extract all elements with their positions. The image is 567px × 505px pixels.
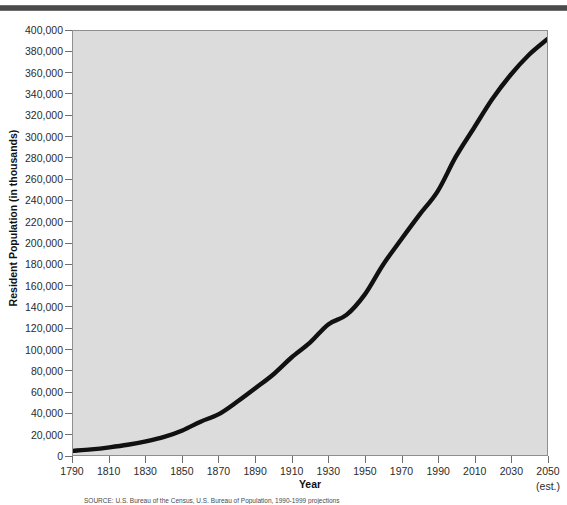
y-axis-tick-mark bbox=[65, 243, 72, 244]
plot-area bbox=[72, 30, 548, 456]
y-axis-tick-label: 300,000 bbox=[25, 131, 63, 143]
x-axis-tick-label: 1810 bbox=[97, 465, 120, 477]
y-axis-tick-mark bbox=[65, 51, 72, 52]
y-axis-tick-label: 200,000 bbox=[25, 237, 63, 249]
y-axis-tick-label: 380,000 bbox=[25, 45, 63, 57]
data-line-svg bbox=[73, 31, 547, 455]
y-axis-tick-label: 400,000 bbox=[25, 24, 63, 36]
x-axis-tick-mark bbox=[511, 456, 512, 463]
y-axis-tick-mark bbox=[65, 72, 72, 73]
y-axis-tick-mark bbox=[65, 157, 72, 158]
x-axis-tick-label: 1930 bbox=[317, 465, 340, 477]
y-axis: 020,00040,00060,00080,000100,000120,0001… bbox=[0, 30, 72, 456]
x-axis-tick-mark bbox=[438, 456, 439, 463]
x-axis-tick-mark bbox=[255, 456, 256, 463]
y-axis-tick-mark bbox=[65, 370, 72, 371]
y-axis-tick-label: 80,000 bbox=[31, 365, 63, 377]
y-axis-tick-mark bbox=[65, 413, 72, 414]
y-axis-tick-label: 240,000 bbox=[25, 194, 63, 206]
y-axis-tick-mark bbox=[65, 434, 72, 435]
x-axis-tick-label: 1910 bbox=[280, 465, 303, 477]
source-note: SOURCE: U.S. Bureau of the Census, U.S. … bbox=[84, 497, 554, 504]
x-axis-tick-label: 2010 bbox=[463, 465, 486, 477]
x-axis-tick-mark bbox=[109, 456, 110, 463]
data-line bbox=[73, 39, 547, 450]
x-axis-tick-label: 1830 bbox=[134, 465, 157, 477]
x-axis-tick-mark bbox=[328, 456, 329, 463]
x-axis-tick-mark bbox=[548, 456, 549, 463]
y-axis-tick-mark bbox=[65, 392, 72, 393]
y-axis-tick-label: 60,000 bbox=[31, 386, 63, 398]
y-axis-tick-mark bbox=[65, 456, 72, 457]
y-axis-tick-mark bbox=[65, 285, 72, 286]
y-axis-tick-label: 0 bbox=[57, 450, 63, 462]
y-axis-tick-label: 220,000 bbox=[25, 216, 63, 228]
population-chart-figure: Resident Population (in thousands) 020,0… bbox=[0, 0, 567, 505]
y-axis-tick-label: 120,000 bbox=[25, 322, 63, 334]
y-axis-tick-mark bbox=[65, 136, 72, 137]
x-axis-tick-label: 2050 bbox=[536, 465, 559, 477]
y-axis-tick-mark bbox=[65, 179, 72, 180]
y-axis-tick-mark bbox=[65, 264, 72, 265]
x-axis-tick-label: 1950 bbox=[353, 465, 376, 477]
x-axis-tick-label: 1870 bbox=[207, 465, 230, 477]
x-axis-title: Year bbox=[72, 478, 548, 490]
y-axis-tick-label: 140,000 bbox=[25, 301, 63, 313]
y-axis-tick-label: 180,000 bbox=[25, 258, 63, 270]
x-axis-tick-mark bbox=[72, 456, 73, 463]
y-axis-tick-mark bbox=[65, 115, 72, 116]
y-axis-tick-label: 340,000 bbox=[25, 88, 63, 100]
x-axis-tick-mark bbox=[402, 456, 403, 463]
x-axis-tick-mark bbox=[292, 456, 293, 463]
x-axis-tick-label: 2030 bbox=[500, 465, 523, 477]
y-axis-tick-mark bbox=[65, 30, 72, 31]
y-axis-tick-label: 260,000 bbox=[25, 173, 63, 185]
y-axis-tick-label: 20,000 bbox=[31, 429, 63, 441]
x-axis-tick-label: 1790 bbox=[60, 465, 83, 477]
y-axis-tick-label: 320,000 bbox=[25, 109, 63, 121]
x-axis-tick-label: 1890 bbox=[243, 465, 266, 477]
x-axis-tick-mark bbox=[145, 456, 146, 463]
y-axis-tick-mark bbox=[65, 93, 72, 94]
y-axis-tick-label: 280,000 bbox=[25, 152, 63, 164]
x-axis-tick-label: 1850 bbox=[170, 465, 193, 477]
y-axis-tick-mark bbox=[65, 221, 72, 222]
x-axis-tick-mark bbox=[218, 456, 219, 463]
y-axis-tick-label: 100,000 bbox=[25, 344, 63, 356]
y-axis-tick-label: 40,000 bbox=[31, 407, 63, 419]
header-rule bbox=[0, 5, 567, 11]
x-axis-tick-label: 1990 bbox=[426, 465, 449, 477]
y-axis-tick-label: 360,000 bbox=[25, 67, 63, 79]
y-axis-tick-label: 160,000 bbox=[25, 280, 63, 292]
x-axis-tick-mark bbox=[182, 456, 183, 463]
y-axis-tick-mark bbox=[65, 349, 72, 350]
y-axis-tick-mark bbox=[65, 200, 72, 201]
x-axis-tick-mark bbox=[365, 456, 366, 463]
x-axis-tick-mark bbox=[475, 456, 476, 463]
y-axis-tick-mark bbox=[65, 306, 72, 307]
x-axis-tick-label: 1970 bbox=[390, 465, 413, 477]
y-axis-tick-mark bbox=[65, 328, 72, 329]
